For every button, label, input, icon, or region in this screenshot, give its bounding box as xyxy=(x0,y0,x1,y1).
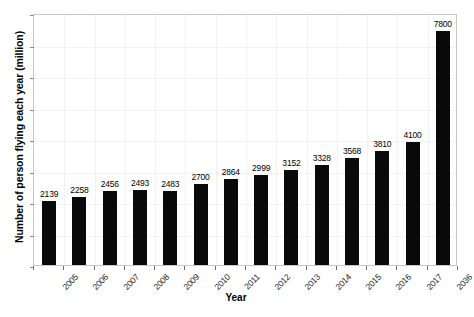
bar-value-label: 3568 xyxy=(343,146,361,156)
bar-slot: 2456 xyxy=(103,15,117,265)
bar-value-label: 2999 xyxy=(252,163,270,173)
bar[interactable] xyxy=(163,191,177,265)
bar-slot: 3328 xyxy=(315,15,329,265)
bar[interactable] xyxy=(224,179,238,265)
bar[interactable] xyxy=(406,142,420,265)
x-axis-tick xyxy=(366,266,367,270)
bar[interactable] xyxy=(345,158,359,265)
bar[interactable] xyxy=(194,184,208,265)
bar[interactable] xyxy=(103,191,117,265)
plot-area: 2139225824562493248327002864299931523328… xyxy=(33,14,457,266)
bar[interactable] xyxy=(72,197,86,265)
bar-slot: 2700 xyxy=(194,15,208,265)
x-axis-tick xyxy=(336,266,337,270)
bar-value-label: 2456 xyxy=(101,179,119,189)
x-axis-title: Year xyxy=(225,292,246,303)
bar-slot: 3568 xyxy=(345,15,359,265)
x-axis-tick xyxy=(33,266,34,270)
x-axis-label: 2012 xyxy=(272,272,292,292)
x-axis-tick xyxy=(215,266,216,270)
x-axis-label: 2009 xyxy=(182,272,202,292)
bar-slot: 2493 xyxy=(133,15,147,265)
x-axis-tick xyxy=(306,266,307,270)
bar-value-label: 3328 xyxy=(313,153,331,163)
x-axis-ticks-and-labels: 2005200620072008200920102011201220132014… xyxy=(33,266,457,316)
bar[interactable] xyxy=(436,31,450,265)
x-axis-tick xyxy=(396,266,397,270)
bar-slot: 2483 xyxy=(163,15,177,265)
x-axis-label: 2010 xyxy=(212,272,232,292)
x-axis-label: 2013 xyxy=(303,272,323,292)
bar[interactable] xyxy=(284,170,298,265)
x-axis-label: 2014 xyxy=(333,272,353,292)
bar-value-label: 2700 xyxy=(192,172,210,182)
x-axis-label: 2005 xyxy=(60,272,80,292)
x-axis-label: 2007 xyxy=(121,272,141,292)
x-axis-tick xyxy=(275,266,276,270)
y-axis-title: Number of person flying each year (milli… xyxy=(8,2,30,272)
x-axis-tick xyxy=(94,266,95,270)
bar-value-label: 2864 xyxy=(222,167,240,177)
bar-slot: 2999 xyxy=(254,15,268,265)
x-axis-label: 2015 xyxy=(363,272,383,292)
bar-slot: 2258 xyxy=(72,15,86,265)
x-axis-label: 2017 xyxy=(424,272,444,292)
x-axis-tick xyxy=(427,266,428,270)
bar-value-label: 4100 xyxy=(404,130,422,140)
x-axis-tick xyxy=(184,266,185,270)
bar[interactable] xyxy=(375,151,389,265)
bar-slot: 4100 xyxy=(406,15,420,265)
bar[interactable] xyxy=(254,175,268,265)
bar-value-label: 7800 xyxy=(434,19,452,29)
bar-value-label: 2139 xyxy=(40,189,58,199)
bar-value-label: 2258 xyxy=(70,185,88,195)
bar-value-label: 2493 xyxy=(131,178,149,188)
bar[interactable] xyxy=(315,165,329,265)
x-axis-label: 2036 xyxy=(454,272,474,292)
x-axis-tick xyxy=(154,266,155,270)
bar-slot: 7800 xyxy=(436,15,450,265)
x-axis-label: 2008 xyxy=(151,272,171,292)
x-axis-label: 2011 xyxy=(242,272,261,291)
x-axis-label: 2006 xyxy=(91,272,111,292)
bar-value-label: 3152 xyxy=(282,158,300,168)
x-axis-tick xyxy=(63,266,64,270)
bar-slot: 2864 xyxy=(224,15,238,265)
x-axis-tick xyxy=(457,266,458,270)
x-axis-title-wrapper: Year xyxy=(0,292,467,303)
bar[interactable] xyxy=(42,201,56,265)
bar-slot: 3810 xyxy=(375,15,389,265)
x-axis-label: 2016 xyxy=(394,272,414,292)
x-axis-tick xyxy=(124,266,125,270)
bar-slot: 2139 xyxy=(42,15,56,265)
bar-slot: 3152 xyxy=(284,15,298,265)
bar-value-label: 3810 xyxy=(373,139,391,149)
x-axis-tick xyxy=(245,266,246,270)
bar[interactable] xyxy=(133,190,147,265)
bars-layer: 2139225824562493248327002864299931523328… xyxy=(34,15,456,265)
bar-value-label: 2483 xyxy=(161,179,179,189)
